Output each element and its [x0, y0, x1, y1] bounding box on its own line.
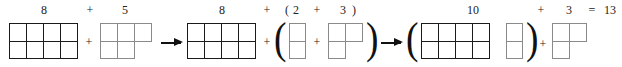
block-3 [328, 23, 364, 59]
arrow-right-icon [161, 42, 181, 44]
plus-sign: + [314, 36, 321, 48]
label-2: 2 [293, 3, 299, 17]
label-close-paren: ) [352, 3, 356, 17]
label-5: 5 [122, 3, 128, 17]
label-13: 13 [604, 3, 616, 17]
block-5 [100, 23, 153, 59]
ten-frame-8 [9, 23, 78, 59]
open-paren: ( [406, 17, 418, 61]
ten-frame-8 [187, 23, 256, 59]
block-2 [289, 23, 306, 59]
label-plus: + [538, 3, 545, 17]
arrow-right-icon [381, 42, 401, 44]
plus-sign: + [540, 38, 547, 50]
plus-sign: + [264, 36, 271, 48]
ten-frame-10 [421, 23, 490, 59]
label-plus: + [314, 3, 321, 17]
label-8: 8 [41, 3, 47, 17]
label-8: 8 [219, 3, 225, 17]
plus-sign: + [86, 36, 93, 48]
label-equals: = [589, 3, 596, 17]
block-3 [552, 23, 588, 59]
label-plus: + [264, 3, 271, 17]
open-paren: ( [274, 17, 286, 61]
label-3: 3 [566, 3, 572, 17]
label-10: 10 [467, 3, 479, 17]
label-3: 3 [340, 3, 346, 17]
close-paren: ) [366, 17, 378, 61]
label-plus: + [87, 3, 94, 17]
block-2 [506, 23, 523, 59]
close-paren: ) [526, 17, 538, 61]
